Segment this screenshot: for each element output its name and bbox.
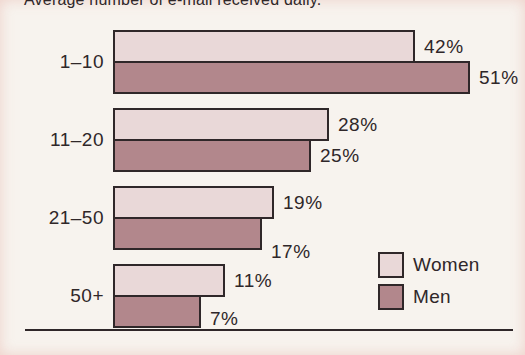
bar-women-50+	[113, 264, 225, 297]
value-label-men-21-50: 17%	[271, 241, 311, 263]
bar-men-50+	[113, 295, 201, 328]
x-axis-baseline	[25, 329, 513, 331]
legend-item-men: Men	[378, 284, 480, 310]
bar-women-1-10	[113, 30, 415, 63]
value-label-men-50+: 7%	[210, 308, 238, 330]
category-label-21-50: 21–50	[0, 207, 104, 229]
category-label-11-20: 11–20	[0, 129, 104, 151]
legend-swatch-men	[378, 284, 404, 310]
legend-swatch-women	[378, 252, 404, 278]
bar-women-21-50	[113, 186, 274, 219]
value-label-women-1-10: 42%	[424, 36, 464, 58]
bar-women-11-20	[113, 108, 329, 141]
category-label-1-10: 1–10	[0, 51, 104, 73]
bar-men-1-10	[113, 61, 470, 94]
value-label-women-21-50: 19%	[283, 192, 323, 214]
bar-men-21-50	[113, 217, 262, 250]
legend-label-women: Women	[413, 254, 480, 276]
category-label-50+: 50+	[0, 285, 104, 307]
value-label-men-11-20: 25%	[320, 145, 360, 167]
legend: WomenMen	[378, 252, 480, 316]
value-label-women-11-20: 28%	[338, 114, 378, 136]
legend-item-women: Women	[378, 252, 480, 278]
chart-figure: Average number of e-mail received daily.…	[0, 0, 525, 355]
value-label-women-50+: 11%	[234, 270, 272, 292]
value-label-men-1-10: 51%	[479, 67, 519, 89]
legend-label-men: Men	[413, 286, 451, 308]
bar-men-11-20	[113, 139, 311, 172]
